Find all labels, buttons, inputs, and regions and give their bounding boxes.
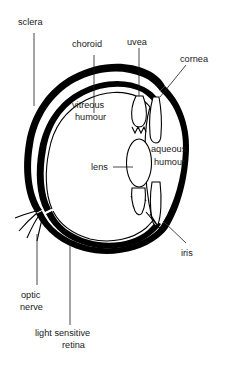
eye-diagram-page: sclera choroid uvea cornea vitreous humo… bbox=[0, 0, 227, 365]
iris-leader-line bbox=[163, 221, 186, 243]
label-leader-lines bbox=[34, 33, 186, 325]
lower-ciliary-process bbox=[132, 188, 146, 215]
label-sclera: sclera bbox=[18, 17, 43, 27]
upper-zonule-fibres bbox=[132, 127, 146, 133]
label-choroid: choroid bbox=[72, 39, 102, 49]
label-cornea: cornea bbox=[180, 54, 209, 64]
label-retina-line1: light sensitive bbox=[35, 328, 90, 338]
label-retina-line2: retina bbox=[62, 340, 86, 350]
label-iris: iris bbox=[181, 248, 193, 258]
cornea-bulge bbox=[160, 86, 189, 226]
label-uvea: uvea bbox=[127, 37, 148, 47]
label-vitreous-humour-line2: humour bbox=[75, 112, 106, 122]
lens-body bbox=[127, 139, 152, 187]
upper-ciliary-process bbox=[132, 96, 147, 127]
optic-nerve-fibres bbox=[15, 211, 43, 241]
label-aqueous-humour-line2: humour bbox=[154, 157, 185, 167]
cornea-leader-line bbox=[160, 65, 186, 97]
label-optic-nerve-line1: optic bbox=[21, 290, 41, 300]
eye-diagram-figure: sclera choroid uvea cornea vitreous humo… bbox=[0, 0, 227, 365]
upper-iris-leaflet bbox=[150, 97, 162, 143]
label-lens: lens bbox=[91, 162, 108, 172]
label-vitreous-humour-line1: vitreous bbox=[72, 100, 105, 110]
label-optic-nerve-line2: nerve bbox=[20, 302, 43, 312]
label-aqueous-humour-line1: aqueous bbox=[151, 144, 187, 154]
